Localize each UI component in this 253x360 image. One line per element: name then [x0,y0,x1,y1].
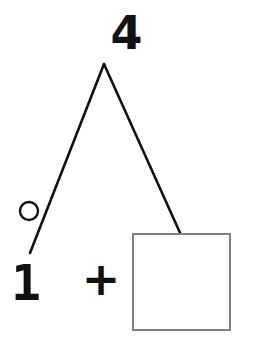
known-part-value: 1 [5,258,47,308]
worksheet-canvas: 4 1 + [0,0,253,360]
total-value: 4 [0,10,253,56]
branch-line-right [104,64,181,235]
answer-box-input[interactable] [133,234,230,330]
plus-operator: + [80,256,122,302]
branch-line-left [30,64,104,253]
circle-marker-icon [20,202,38,220]
